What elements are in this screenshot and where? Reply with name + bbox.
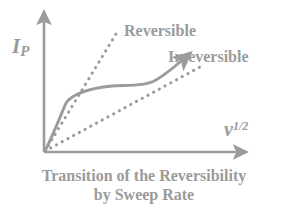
x-axis-label-superscript: 1/2 [233,119,248,133]
irreversible-dotted-line [45,67,200,151]
caption-line-2: by Sweep Rate [0,185,288,204]
y-axis-label-subscript: P [20,43,29,59]
y-axis-label-symbol: I [12,34,20,58]
transition-curve [45,62,180,151]
reversible-annotation-label: Reversible [124,23,196,39]
reversible-dotted-line [45,29,119,151]
irreversible-annotation-label: Irreversible [168,49,249,65]
y-axis-label: IP [12,36,29,59]
figure-caption: Transition of the Reversibility by Sweep… [0,166,288,204]
x-axis-label-symbol: v [224,118,233,140]
x-axis-label: v1/2 [224,119,248,139]
figure-canvas: IP v1/2 Reversible Irreversible Transiti… [0,0,288,211]
caption-line-1: Transition of the Reversibility [0,166,288,185]
